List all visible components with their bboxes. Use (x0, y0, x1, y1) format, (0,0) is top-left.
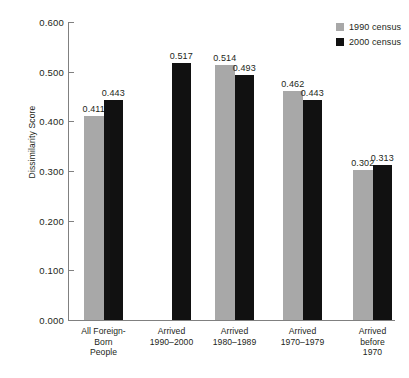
legend-swatch-icon-1990 (336, 23, 344, 31)
y-axis-tick-label: 0.600 (6, 17, 64, 28)
y-axis-tick-label: 0.200 (6, 215, 64, 226)
x-axis-category-label: Arrived 1970–1979 (271, 326, 335, 347)
plot-area: 0.4110.4430.5170.5140.4930.4620.4430.302… (68, 22, 395, 320)
bar (235, 75, 255, 320)
bar-value-label: 0.313 (366, 153, 398, 163)
y-axis-tick (69, 320, 74, 321)
y-axis-tick-label: 0.100 (6, 265, 64, 276)
y-axis-tick-label: 0.400 (6, 116, 64, 127)
bar (283, 91, 303, 320)
bar (303, 100, 323, 320)
bar-value-label: 0.517 (165, 51, 197, 61)
legend-label-1990: 1990 census (349, 22, 401, 32)
bar (172, 63, 192, 320)
y-axis-tick-label: 0.300 (6, 166, 64, 177)
y-axis-tick-label: 0.000 (6, 315, 64, 326)
y-axis-tick-label: 0.500 (6, 66, 64, 77)
bar-value-label: 0.443 (97, 88, 129, 98)
y-axis-title: Dissimilarity Score (27, 57, 37, 227)
legend-item-1990-census: 1990 census (336, 19, 401, 34)
bar (104, 100, 124, 320)
bar-chart: Dissimilarity Score 0.6000.5000.4000.300… (0, 0, 409, 378)
bar (353, 170, 373, 320)
x-axis-category-label: All Foreign- Born People (72, 326, 136, 358)
bar (215, 65, 235, 320)
legend-item-2000-census: 2000 census (336, 34, 401, 49)
bar-value-label: 0.514 (209, 53, 241, 63)
legend-label-2000: 2000 census (349, 37, 401, 47)
bar (84, 116, 104, 320)
x-axis-category-label: Arrived 1980–1989 (203, 326, 267, 347)
x-axis-line (68, 320, 395, 321)
x-axis-category-label: Arrived 1990–2000 (140, 326, 204, 347)
bar-value-label: 0.443 (296, 88, 328, 98)
legend: 1990 census 2000 census (336, 19, 401, 49)
legend-swatch-icon-2000 (336, 38, 344, 46)
bar-value-label: 0.493 (228, 63, 260, 73)
x-axis-category-label: Arrived before 1970 (341, 326, 405, 358)
bar (373, 165, 393, 320)
